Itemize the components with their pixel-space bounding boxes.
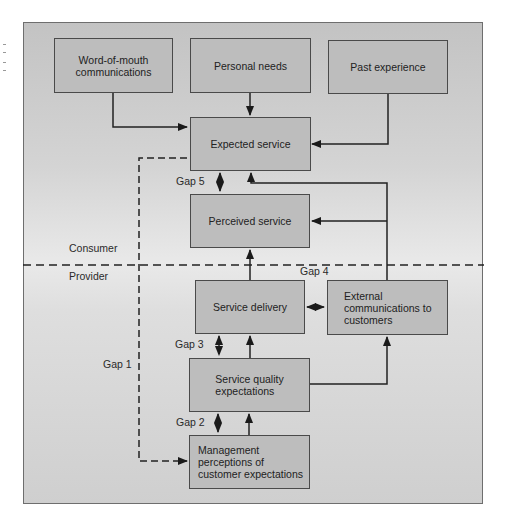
gap-label-1: Gap 1 xyxy=(103,358,132,370)
node-external-communications: External communications to customers xyxy=(327,280,448,335)
node-perceived-service: Perceived service xyxy=(190,194,310,248)
region-label-consumer: Consumer xyxy=(69,242,117,254)
node-service-quality-expectations: Service quality expectations xyxy=(189,358,310,412)
gap-label-5: Gap 5 xyxy=(176,175,205,187)
node-past-experience: Past experience xyxy=(328,40,448,94)
node-label: Personal needs xyxy=(214,60,287,72)
node-label: Past experience xyxy=(350,61,425,73)
gap-label-4: Gap 4 xyxy=(300,265,329,277)
node-label: Management perceptions of customer expec… xyxy=(198,444,303,480)
node-expected-service: Expected service xyxy=(190,117,311,171)
node-service-delivery: Service delivery xyxy=(195,280,305,334)
node-label: Service quality expectations xyxy=(215,373,283,397)
gap-label-3: Gap 3 xyxy=(175,338,204,350)
node-label: Service delivery xyxy=(213,301,287,313)
region-label-provider: Provider xyxy=(69,270,108,282)
node-label: Expected service xyxy=(211,138,291,150)
node-label: External communications to customers xyxy=(344,290,432,326)
node-management-perceptions: Management perceptions of customer expec… xyxy=(189,435,310,489)
node-label: Perceived service xyxy=(209,215,292,227)
gap-label-2: Gap 2 xyxy=(176,416,205,428)
node-word-of-mouth: Word-of-mouth communications xyxy=(54,38,173,93)
node-label: Word-of-mouth communications xyxy=(76,54,152,78)
node-personal-needs: Personal needs xyxy=(190,38,311,93)
